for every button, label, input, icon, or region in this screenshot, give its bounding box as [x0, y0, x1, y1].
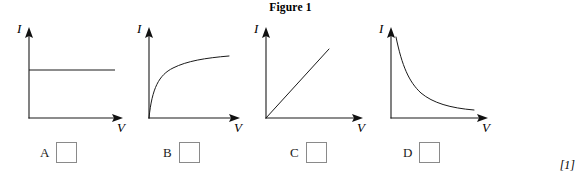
- graph-option-d: I V: [375, 18, 503, 136]
- graph-d-curve: [396, 37, 474, 110]
- graph-d-y-axis-label: I: [378, 21, 384, 36]
- answer-letter-b: B: [163, 146, 172, 159]
- answer-checkbox-d[interactable]: [419, 142, 440, 163]
- graph-c-curve: [266, 49, 329, 118]
- figure-question-page: Figure 1 I V I V: [0, 0, 581, 182]
- graph-c-y-axis-label: I: [253, 21, 259, 36]
- answer-options-row: A B C D [1]: [0, 140, 581, 182]
- marks-allocation: [1]: [560, 158, 575, 173]
- graph-a-y-axis-label: I: [16, 21, 22, 36]
- answer-group-a: A: [40, 142, 77, 163]
- answer-group-b: B: [163, 142, 200, 163]
- graph-option-c: I V: [253, 18, 381, 136]
- answer-checkbox-c[interactable]: [306, 142, 327, 163]
- graph-a-x-axis-label: V: [117, 120, 127, 135]
- figure-title: Figure 1: [0, 1, 581, 13]
- answer-checkbox-b[interactable]: [179, 142, 200, 163]
- answer-group-c: C: [290, 142, 327, 163]
- graph-option-a: I V: [14, 18, 142, 136]
- answer-letter-c: C: [290, 146, 299, 159]
- answer-letter-d: D: [403, 146, 412, 159]
- graph-b-x-axis-label: V: [234, 120, 244, 135]
- graph-b-curve: [149, 56, 229, 118]
- graph-d-svg: I V: [375, 18, 503, 136]
- graph-b-y-axis-label: I: [136, 21, 142, 36]
- answer-checkbox-a[interactable]: [56, 142, 77, 163]
- graph-d-x-axis-label: V: [482, 120, 492, 135]
- graph-a-svg: I V: [14, 18, 142, 136]
- graph-c-x-axis-label: V: [357, 120, 367, 135]
- answer-group-d: D: [403, 142, 440, 163]
- graph-c-svg: I V: [253, 18, 381, 136]
- graph-option-b: I V: [129, 18, 257, 136]
- graph-b-svg: I V: [129, 18, 257, 136]
- answer-letter-a: A: [40, 146, 49, 159]
